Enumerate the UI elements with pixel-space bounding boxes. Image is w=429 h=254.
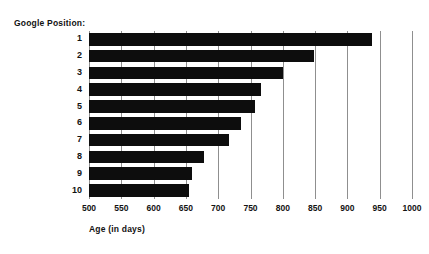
category-tick-label-6: 6 (8, 117, 82, 127)
value-axis-title: Age (in days) (89, 224, 145, 234)
bar-position-6 (89, 117, 241, 130)
category-axis-title: Google Position: (14, 18, 85, 28)
bar-position-3 (89, 67, 283, 80)
category-tick-label-10: 10 (8, 185, 82, 195)
category-tick-label-3: 3 (8, 67, 82, 77)
category-tick-label-5: 5 (8, 101, 82, 111)
category-tick-label-7: 7 (8, 134, 82, 144)
gridline-1000 (412, 31, 413, 199)
bar-position-9 (89, 167, 192, 180)
category-tick-label-8: 8 (8, 151, 82, 161)
bar-position-5 (89, 100, 255, 113)
bar-position-1 (89, 33, 372, 46)
category-tick-label-1: 1 (8, 33, 82, 43)
plot-area (89, 31, 412, 199)
bar-position-8 (89, 151, 204, 164)
bar-position-10 (89, 184, 189, 197)
bars-layer (89, 31, 412, 199)
category-tick-label-4: 4 (8, 84, 82, 94)
bar-position-7 (89, 134, 229, 147)
bar-position-2 (89, 50, 314, 63)
bar-position-4 (89, 83, 261, 96)
category-tick-label-9: 9 (8, 168, 82, 178)
value-tick-label-1000: 1000 (392, 203, 429, 213)
category-tick-label-2: 2 (8, 50, 82, 60)
bar-chart-figure: Google Position: 12345678910 50055060065… (0, 0, 429, 254)
